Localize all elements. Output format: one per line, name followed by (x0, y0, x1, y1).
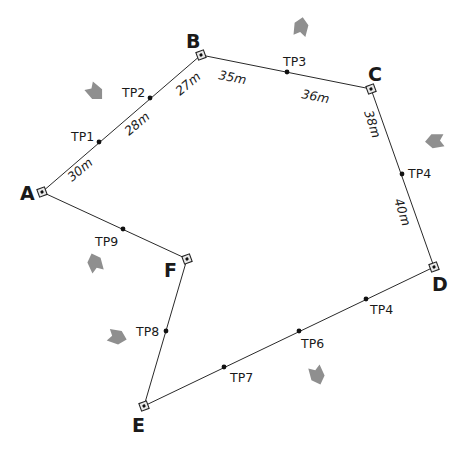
turning-point-tp4-cd: TP4 (400, 166, 432, 181)
turning-point-tp1: TP1 (70, 129, 101, 144)
direction-arrow-icon (293, 16, 310, 37)
tp-dot-icon (222, 365, 227, 370)
distance-label-tp2-b: 27m (172, 69, 203, 99)
station-marker-icon (429, 262, 439, 272)
distance-label-a-tp1: 30m (64, 155, 95, 185)
tp-label: TP4 (407, 166, 431, 181)
station-label: C (368, 63, 382, 85)
direction-arrow-icon (106, 328, 128, 346)
station-label: F (164, 259, 177, 281)
direction-arrow-icon (85, 251, 105, 274)
distance-labels: 30m28m27m35m36m38m40m (64, 67, 414, 227)
distance-label-tp1-tp2: 28m (121, 109, 152, 139)
tp-label: TP2 (121, 85, 145, 100)
turning-point-tp3: TP3 (282, 54, 306, 74)
station-label: E (132, 414, 145, 436)
tp-label: TP8 (135, 324, 159, 339)
distance-label-c-tp4: 38m (361, 108, 384, 139)
tp-label: TP6 (300, 336, 324, 351)
tp-label: TP1 (70, 129, 94, 144)
traverse-diagram: TP1TP2TP3TP4TP4TP6TP7TP8TP9 ABCDEF 30m28… (0, 0, 469, 455)
turning-point-tp9: TP9 (94, 227, 125, 249)
tp-dot-icon (400, 172, 405, 177)
tp-label: TP7 (229, 370, 253, 385)
turning-point-tp8: TP8 (135, 324, 168, 339)
station-marker-icon (366, 84, 376, 94)
tp-dot-icon (297, 329, 302, 334)
station-e: E (132, 401, 149, 436)
tp-dot-icon (97, 140, 102, 145)
station-f: F (164, 254, 192, 281)
direction-arrow-icon (84, 81, 107, 104)
tp-dot-icon (285, 70, 290, 75)
tp-dot-icon (364, 297, 369, 302)
station-b: B (186, 30, 206, 60)
station-c: C (366, 63, 382, 94)
station-label: B (186, 30, 200, 52)
tp-label: TP3 (282, 54, 306, 69)
station-label: D (432, 273, 448, 295)
station-marker-icon (182, 254, 192, 264)
tp-label: TP9 (94, 234, 118, 249)
station-a: A (20, 182, 47, 204)
turning-point-tp7: TP7 (222, 365, 254, 385)
station-marker-icon (139, 401, 149, 411)
turning-point-tp6: TP6 (297, 329, 325, 351)
tp-label: TP4 (369, 302, 393, 317)
distance-label-tp3-c: 36m (300, 86, 330, 106)
station-label: A (20, 182, 35, 204)
tp-dot-icon (164, 329, 169, 334)
direction-arrow-icon (307, 364, 327, 387)
tp-dot-icon (121, 227, 126, 232)
station-d: D (429, 262, 448, 295)
tp-dot-icon (148, 96, 153, 101)
turning-point-tp4-de: TP4 (364, 297, 394, 317)
direction-arrow-icon (424, 133, 444, 149)
distance-label-b-tp3: 35m (217, 67, 247, 87)
turning-point-tp2: TP2 (121, 85, 152, 100)
